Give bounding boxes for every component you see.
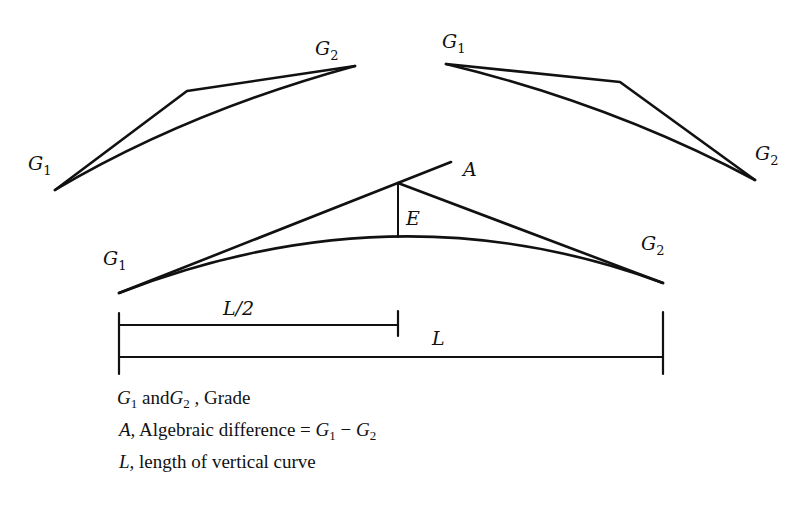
- legend-length: L, length of vertical curve: [119, 451, 316, 473]
- label-e: E: [405, 207, 420, 229]
- curve-top-right: [446, 64, 755, 180]
- legend-grade: G1 andG2 , Grade: [117, 387, 250, 412]
- label-g1-top-right: G1: [442, 30, 465, 56]
- vertical-curve: [119, 236, 663, 293]
- label-a: A: [461, 158, 477, 180]
- legend-algebraic-difference: A, Algebraic difference = G1 − G2: [119, 419, 376, 444]
- tangent-g2: [398, 183, 663, 283]
- label-length: L: [431, 327, 445, 349]
- curve-top-left: [55, 66, 355, 190]
- label-g2-top-left: G2: [315, 37, 338, 63]
- label-g2-main: G2: [641, 232, 664, 258]
- label-half-length: L/2: [222, 297, 254, 319]
- label-g2-top-right: G2: [755, 142, 778, 168]
- label-g1-top-left: G1: [28, 152, 51, 178]
- tangent-g1: [119, 162, 451, 293]
- label-g1-main: G1: [103, 247, 126, 273]
- tangent-lines-top-right: [446, 64, 755, 180]
- tangent-lines-top-left: [55, 66, 355, 190]
